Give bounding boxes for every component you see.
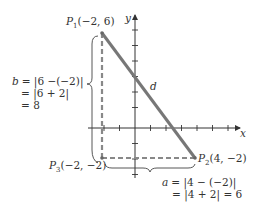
point-p1 <box>100 31 104 35</box>
svg-text:= 8: = 8 <box>21 99 40 111</box>
diagram-canvas: x y d <box>0 0 270 210</box>
svg-text:= |4 + 2| = 6: = |4 + 2| = 6 <box>172 188 243 202</box>
horizontal-leg-equation: a= |4 − (−2)| = |4 + 2| = 6 <box>162 176 243 202</box>
point-p2 <box>193 156 197 160</box>
segment-label-d: d <box>150 80 157 92</box>
p2-label: P2(4, −2) <box>197 152 247 167</box>
horizontal-brace-icon <box>105 164 195 172</box>
vertical-brace-icon <box>87 36 98 163</box>
distance-segment-d <box>102 33 195 158</box>
p3-label: P3(−2, −2) <box>48 159 106 174</box>
p1-label: P1(−2, 6) <box>65 15 115 30</box>
y-axis: y <box>124 12 138 178</box>
x-axis-label: x <box>240 127 246 139</box>
distance-diagram: x y d <box>0 0 270 210</box>
x-axis: x <box>88 125 246 139</box>
y-axis-label: y <box>124 12 132 24</box>
vertical-leg-equation: b= |6 −(−2)| = |6 + 2| = 8 <box>12 75 83 111</box>
